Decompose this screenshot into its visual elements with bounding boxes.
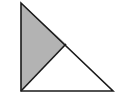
triangle-diagram [0, 0, 115, 98]
